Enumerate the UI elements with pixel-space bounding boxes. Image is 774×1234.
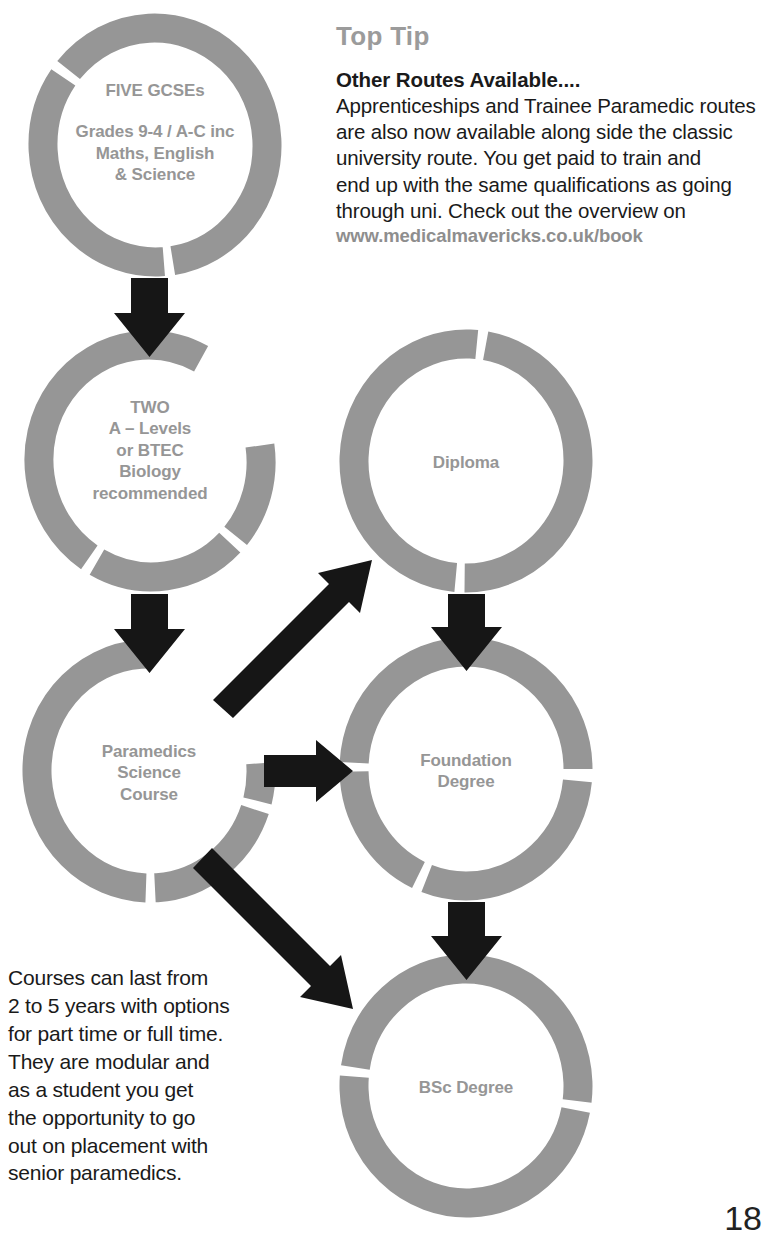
- note-line: out on placement with: [8, 1132, 318, 1160]
- top-tip-body-line: through uni. Check out the overview on: [336, 198, 768, 224]
- arrow-paramedics-science-course-to-diploma: [213, 560, 372, 718]
- top-tip-subheading: Other Routes Available....: [336, 67, 768, 93]
- note-line: They are modular and: [8, 1048, 318, 1076]
- top-tip-body-line: university route. You get paid to train …: [336, 145, 768, 171]
- top-tip-body: Apprenticeships and Trainee Paramedic ro…: [336, 93, 768, 225]
- node-ring-foundation-degree: [354, 652, 578, 886]
- arrow-paramedics-science-course-to-foundation-degree: [264, 740, 353, 802]
- course-duration-note: Courses can last from 2 to 5 years with …: [8, 964, 318, 1187]
- top-tip-panel: Top Tip Other Routes Available.... Appre…: [336, 22, 768, 249]
- node-ring-a-levels: [24, 331, 276, 592]
- note-line: senior paramedics.: [8, 1159, 318, 1187]
- node-ring-diploma: [350, 340, 582, 582]
- note-line: 2 to 5 years with options: [8, 992, 318, 1020]
- top-tip-body-line: are also now available along side the cl…: [336, 119, 768, 145]
- page-number: 18: [724, 1199, 762, 1234]
- node-ring-gcses: [37, 22, 273, 267]
- note-line: as a student you get: [8, 1076, 318, 1104]
- top-tip-body-line: end up with the same qualifications as g…: [336, 172, 768, 198]
- top-tip-body-line: Apprenticeships and Trainee Paramedic ro…: [336, 93, 768, 119]
- node-ring-bsc-degree: [350, 965, 582, 1207]
- note-line: the opportunity to go: [8, 1104, 318, 1132]
- top-tip-url[interactable]: www.medicalmavericks.co.uk/book: [336, 224, 768, 248]
- top-tip-heading: Top Tip: [336, 22, 768, 51]
- note-line: for part time or full time.: [8, 1020, 318, 1048]
- note-line: Courses can last from: [8, 964, 318, 992]
